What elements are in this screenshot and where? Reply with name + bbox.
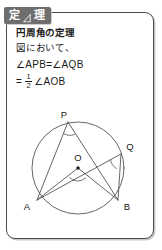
point-label-P: P [61,109,67,120]
segment-OB [78,168,118,200]
inscribed-angle-diagram: P Q A B O [11,106,151,232]
theorem-tab-header: 定 理 [4,7,51,24]
tab-label-first-char: 定 [9,10,20,21]
equation-line-one: ∠APB=∠AQB [16,59,146,70]
theorem-body: 円周角の定理 図において、 ∠APB=∠AQB = 1 2 ∠AOB [16,28,146,90]
fraction-one-half: 1 2 [25,73,32,90]
tab-label-last-char: 理 [34,10,45,21]
angle-arc-at-P [64,134,75,136]
center-point-dot [76,166,79,169]
theorem-title: 円周角の定理 [16,28,146,38]
fraction-numerator: 1 [26,73,30,81]
figure-intro-text: 図において、 [16,43,146,53]
point-label-A: A [24,201,31,212]
point-label-O: O [74,152,81,163]
point-label-B: B [124,201,130,212]
segment-QB [118,154,121,200]
fraction-denominator: 2 [26,82,30,90]
angle-aob-term: ∠AOB [34,76,65,87]
equation-line-two: = 1 2 ∠AOB [16,73,146,90]
set-square-triangle-icon [21,10,33,22]
equals-sign: = [16,76,22,87]
angle-arc-at-Q [111,160,117,169]
point-label-Q: Q [126,141,133,152]
